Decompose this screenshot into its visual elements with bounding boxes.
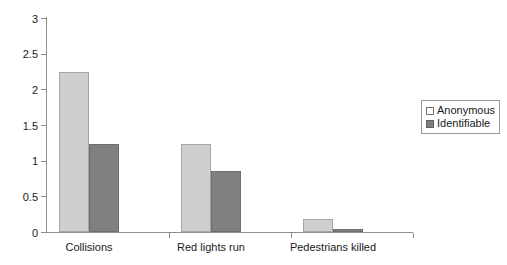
legend-item-identifiable[interactable]: Identifiable — [426, 117, 495, 130]
y-axis-tick-label: 1 — [32, 156, 38, 167]
y-axis-tick-label: 0.5 — [23, 191, 38, 202]
chart-legend: Anonymous Identifiable — [421, 100, 500, 134]
y-axis-tick-label: 2.5 — [23, 49, 38, 60]
bar-identifiable-0 — [89, 144, 119, 232]
x-axis-category-label: Collisions — [65, 241, 112, 253]
y-axis-tick-label: 0 — [32, 227, 38, 238]
x-axis-tick — [413, 233, 414, 238]
bar-anonymous-0 — [59, 72, 89, 233]
bar-anonymous-1 — [181, 144, 211, 232]
x-axis-line — [46, 232, 413, 233]
x-axis-tick — [169, 233, 170, 238]
plot-area — [47, 18, 413, 232]
bar-identifiable-2 — [333, 229, 363, 232]
x-axis-category-label: Pedestrians killed — [290, 241, 376, 253]
x-axis-category-label: Red lights run — [177, 241, 245, 253]
legend-swatch-anonymous-icon — [426, 107, 434, 115]
y-axis-tick-label: 1.5 — [23, 120, 38, 131]
legend-label-anonymous: Anonymous — [437, 105, 495, 116]
bar-anonymous-2 — [303, 219, 333, 232]
x-axis-tick — [291, 233, 292, 238]
legend-item-anonymous[interactable]: Anonymous — [426, 104, 495, 117]
legend-swatch-identifiable-icon — [426, 120, 434, 128]
legend-label-identifiable: Identifiable — [437, 118, 490, 129]
y-axis-tick-label: 2 — [32, 84, 38, 95]
y-axis-tick-label: 3 — [32, 13, 38, 24]
bar-chart: 00.511.522.53 CollisionsRed lights runPe… — [0, 0, 507, 265]
bar-identifiable-1 — [211, 171, 241, 232]
